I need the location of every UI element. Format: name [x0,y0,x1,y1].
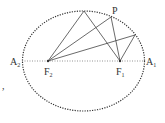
ellipse-diagram: A2 A1 F2 F1 P , [0,0,165,123]
focal-lines [48,11,135,61]
line-f2-t [48,11,84,61]
stray-mark: , [2,80,5,91]
label-f1: F1 [116,66,125,78]
label-a2: A2 [10,56,20,68]
focus-f2-dot [47,60,49,62]
label-f2: F2 [44,66,53,78]
label-a1: A1 [146,56,156,68]
label-p: P [112,5,118,16]
focus-f1-dot [119,60,121,62]
ellipse [23,11,145,111]
line-f2-p [48,17,111,61]
